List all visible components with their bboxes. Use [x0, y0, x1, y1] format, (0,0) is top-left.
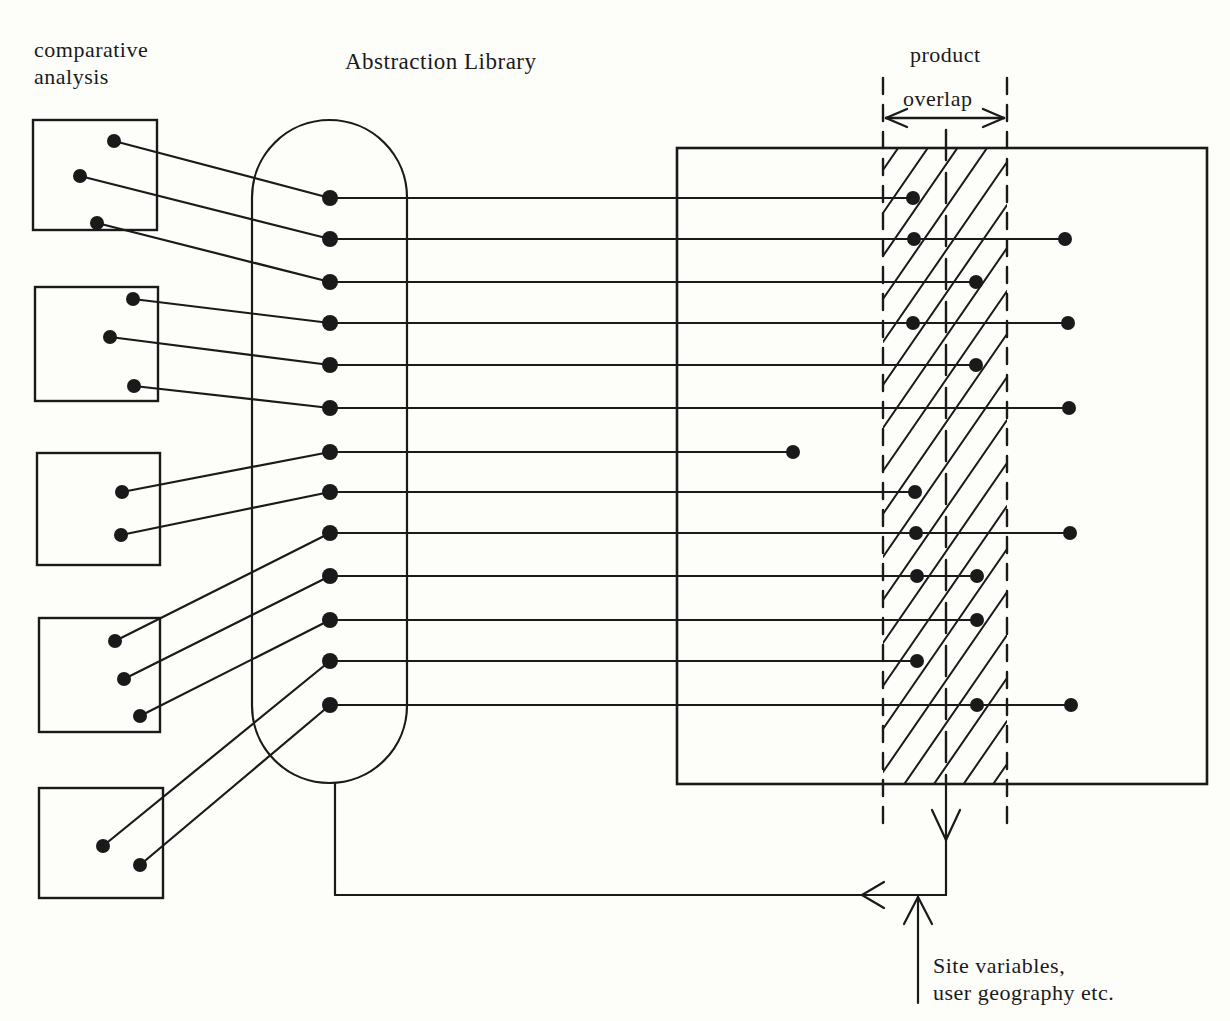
feedback-path [335, 783, 960, 908]
overlap-extent-arrow [886, 109, 1004, 127]
diagram-geometry [33, 0, 1207, 1003]
comparative-analysis-label-line2: analysis [34, 64, 109, 89]
abstraction-library-dots [322, 190, 338, 713]
library-to-product-links [330, 191, 1078, 712]
product-label: product [910, 42, 981, 67]
abstraction-library-diagram: comparative analysis Abstraction Library… [0, 0, 1230, 1021]
scanned-diagram-page: comparative analysis Abstraction Library… [0, 0, 1230, 1021]
comparative-analysis-boxes [33, 120, 163, 898]
abstraction-library-label: Abstraction Library [345, 49, 537, 74]
product-box [677, 148, 1207, 784]
site-variables-arrow [904, 897, 932, 1003]
site-variables-label-line1: Site variables, [933, 953, 1065, 978]
overlap-label: overlap [903, 86, 972, 111]
site-variables-label-line2: user geography etc. [933, 980, 1114, 1005]
comparative-analysis-label-line1: comparative [34, 37, 148, 62]
analysis-to-library-links [80, 141, 330, 865]
